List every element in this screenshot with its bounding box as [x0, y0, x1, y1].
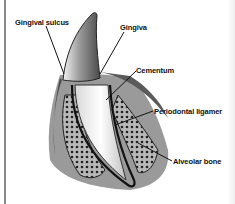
label-gingival-sulcus: Gingival sulcus — [15, 18, 69, 27]
label-periodontal-ligament: Periodontal ligamer — [154, 107, 222, 116]
label-cementum: Cementum — [136, 66, 174, 75]
label-gingiva: Gingiva — [120, 23, 147, 32]
tooth-illustration — [0, 0, 235, 204]
label-alveolar-bone: Alveolar bone — [173, 157, 221, 166]
